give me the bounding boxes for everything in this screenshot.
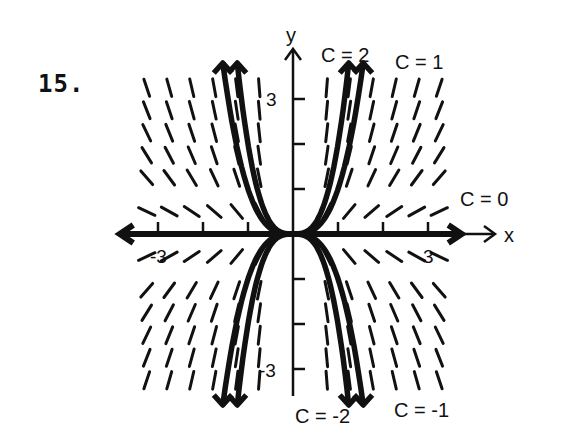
slope-mark <box>370 349 374 367</box>
slope-mark <box>369 147 375 164</box>
slope-mark <box>413 147 421 163</box>
slope-mark <box>370 101 374 119</box>
slope-mark <box>184 207 199 217</box>
slope-mark <box>143 327 151 343</box>
slope-mark <box>365 251 379 263</box>
slope-mark <box>326 79 327 97</box>
slope-mark <box>143 349 150 366</box>
slope-mark <box>435 148 444 163</box>
slope-mark <box>435 327 443 343</box>
slope-mark <box>392 79 396 97</box>
slope-mark <box>212 124 217 141</box>
slope-mark <box>433 171 445 185</box>
slope-mark <box>348 349 351 367</box>
slope-mark <box>165 305 173 321</box>
slope-mark <box>326 349 328 367</box>
slope-mark <box>370 371 373 389</box>
slope-mark <box>392 371 396 389</box>
slope-mark <box>210 282 218 298</box>
curve-label-c0: C = 0 <box>460 188 508 210</box>
curve-label-cneg1: C = -1 <box>394 399 449 421</box>
slope-mark <box>346 282 352 299</box>
slope-mark <box>234 169 240 186</box>
slope-mark <box>391 124 397 141</box>
y-axis-label: y <box>286 24 296 46</box>
slope-mark <box>343 205 355 219</box>
slope-mark <box>143 102 150 119</box>
slope-mark <box>166 102 172 119</box>
slope-mark <box>414 79 419 96</box>
slope-mark <box>189 327 195 344</box>
slope-mark <box>387 252 402 262</box>
curve-label-c2: C = 2 <box>321 44 369 66</box>
direction-field-plot: x y -3 3 3 -3 C = 2 C = 1 C = 0 C = -2 C… <box>0 0 563 430</box>
slope-mark <box>368 282 376 298</box>
slope-mark <box>231 250 243 264</box>
slope-mark <box>213 79 216 97</box>
slope-mark <box>392 349 397 366</box>
slope-mark <box>190 371 194 389</box>
slope-mark <box>368 170 376 186</box>
slope-mark <box>258 304 261 322</box>
slope-mark <box>188 304 195 321</box>
slope-mark <box>326 101 328 119</box>
slope-mark <box>258 326 260 344</box>
slope-mark <box>143 125 151 141</box>
slope-mark <box>164 283 175 298</box>
slope-mark <box>436 79 442 96</box>
slope-mark <box>189 102 194 119</box>
slope-mark <box>414 102 420 119</box>
slope-mark <box>326 371 327 389</box>
slope-mark <box>210 170 218 186</box>
slope-mark <box>365 206 379 218</box>
slope-mark <box>212 101 216 119</box>
slope-mark <box>436 372 442 389</box>
slope-mark <box>326 326 328 344</box>
slope-mark <box>433 283 445 297</box>
slope-mark <box>187 283 196 298</box>
slope-mark <box>369 124 374 141</box>
figure: 15. x y -3 3 3 -3 C = 2 C = 1 C = 0 C = … <box>0 0 563 430</box>
slope-mark <box>431 208 447 216</box>
slope-mark <box>436 349 443 366</box>
slope-mark <box>369 327 374 344</box>
slope-mark <box>166 349 172 366</box>
slope-mark <box>259 79 260 97</box>
slope-mark <box>258 124 260 142</box>
slope-mark <box>387 207 402 217</box>
slope-mark <box>212 327 217 344</box>
slope-mark <box>370 79 373 97</box>
slope-mark <box>142 148 151 163</box>
slope-mark <box>411 283 422 298</box>
slope-mark <box>167 79 172 96</box>
slope-mark <box>190 79 194 97</box>
slope-mark <box>413 124 420 141</box>
y-tick-label-3: 3 <box>266 89 277 110</box>
slope-mark <box>165 147 173 163</box>
slope-mark <box>436 102 443 119</box>
slope-mark <box>390 170 399 185</box>
slope-mark <box>189 124 195 141</box>
slope-mark <box>184 252 199 262</box>
curve-label-cneg2: C = -2 <box>295 405 350 427</box>
slope-mark <box>166 124 173 141</box>
y-tick-label-neg3: -3 <box>259 360 276 381</box>
slope-mark <box>391 304 398 321</box>
slope-mark <box>207 251 221 263</box>
slope-mark <box>213 371 216 389</box>
slope-mark <box>207 206 221 218</box>
slope-mark <box>390 283 399 298</box>
slope-mark <box>411 170 422 185</box>
curve-label-c1: C = 1 <box>395 51 443 73</box>
slope-mark <box>435 125 443 141</box>
slope-mark <box>211 147 217 164</box>
slope-mark <box>141 283 153 297</box>
slope-mark <box>166 327 173 344</box>
slope-mark <box>392 102 397 119</box>
slope-mark <box>144 372 150 389</box>
slope-mark <box>346 169 352 186</box>
slope-mark <box>187 170 196 185</box>
slope-mark <box>231 205 243 219</box>
slope-mark <box>369 304 375 321</box>
slope-mark <box>391 147 398 164</box>
